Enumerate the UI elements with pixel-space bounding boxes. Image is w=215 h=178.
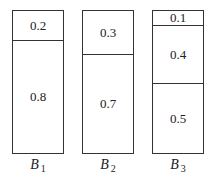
segment-b3-middle: 0.4 [153,25,203,83]
segment-b1-top: 0.2 [13,11,63,40]
label-b2: B2 [82,157,134,174]
box-b2: 0.3 0.7 [82,10,134,154]
segment-b3-bottom: 0.5 [153,83,203,153]
segment-b2-top: 0.3 [83,11,133,54]
segment-b1-bottom: 0.8 [13,40,63,153]
segment-b3-top: 0.1 [153,11,203,25]
label-b3: B3 [152,157,204,174]
label-b1: B1 [12,157,64,174]
box-b1: 0.2 0.8 [12,10,64,154]
box-b3: 0.1 0.4 0.5 [152,10,204,154]
segment-b2-bottom: 0.7 [83,54,133,153]
